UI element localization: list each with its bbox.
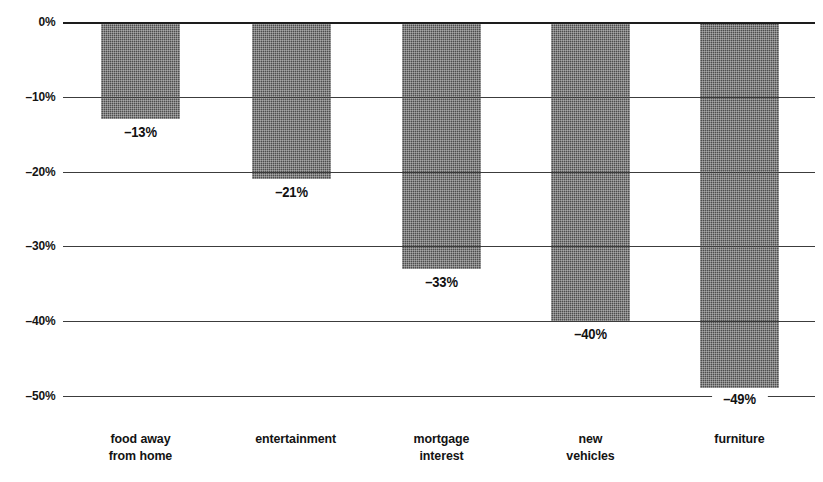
y-tick-label: 0% (38, 14, 55, 29)
category-label-mortgage-interest: mortgage interest (405, 430, 478, 464)
bar[interactable] (700, 22, 779, 388)
bar[interactable] (252, 22, 331, 179)
bar-group: –21% (252, 22, 331, 396)
gridline-30 (63, 246, 815, 247)
bar-group: –49% (700, 22, 779, 396)
y-tick-label: –50% (25, 388, 55, 403)
gridline-40 (63, 321, 815, 322)
y-tick-label: –20% (25, 164, 55, 179)
gridline-10 (63, 97, 815, 98)
category-label-line1: entertainment (255, 431, 336, 446)
bar-group: –40% (551, 22, 630, 396)
plot-area: –13% –21% –33% –40% –49% (63, 22, 815, 396)
category-label-line2: vehicles (554, 447, 627, 464)
category-label-line1: food away (111, 431, 171, 446)
bar-chart: 0% –10% –20% –30% –40% –50% –13% –21% –3… (0, 0, 823, 482)
category-label-line1: mortgage (414, 431, 470, 446)
bar-value-label: –49% (679, 391, 801, 407)
bar-value-label: –13% (80, 124, 202, 140)
x-axis: food away from home entertainment mortga… (63, 430, 815, 482)
category-label-new-vehicles: new vehicles (554, 430, 627, 464)
category-label-entertainment: entertainment (255, 430, 328, 447)
gridline-0 (63, 22, 815, 24)
bar-group: –33% (402, 22, 481, 396)
y-axis: 0% –10% –20% –30% –40% –50% (0, 22, 55, 396)
bar[interactable] (402, 22, 481, 269)
category-label-line1: furniture (714, 431, 764, 446)
category-label-line1: new (579, 431, 603, 446)
bar-group: –13% (101, 22, 180, 396)
category-label-furniture: furniture (703, 430, 776, 447)
bar-value-label: –33% (381, 274, 503, 290)
category-label-food-away-from-home: food away from home (104, 430, 177, 464)
gridline-20 (63, 172, 815, 173)
y-tick-label: –30% (25, 238, 55, 253)
category-label-line2: interest (405, 447, 478, 464)
y-tick-label: –40% (25, 313, 55, 328)
bar-value-label: –21% (231, 184, 353, 200)
bar-value-label: –40% (530, 326, 652, 342)
y-tick-label: –10% (25, 89, 55, 104)
category-label-line2: from home (104, 447, 177, 464)
bar[interactable] (101, 22, 180, 119)
